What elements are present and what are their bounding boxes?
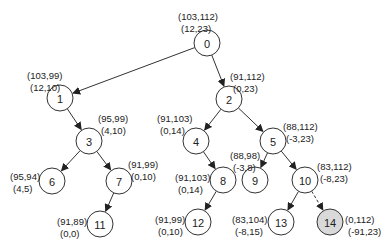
edge-2-4 xyxy=(205,109,221,130)
node-offset-label: (-8,15) xyxy=(235,226,263,237)
node-offset-label: (0,14) xyxy=(178,184,203,195)
edge-0-1 xyxy=(73,48,195,94)
node-id-label: 13 xyxy=(275,217,287,229)
node-id-label: 8 xyxy=(220,175,226,187)
node-id-label: 5 xyxy=(270,136,276,148)
edge-5-9 xyxy=(261,153,268,167)
node-coord-label: (91,103) xyxy=(175,172,210,183)
node-coord-label: (83,112) xyxy=(317,161,352,172)
edge-10-14 xyxy=(312,191,323,210)
edge-0-2 xyxy=(212,55,224,86)
node-coord-label: (91,103) xyxy=(157,113,192,124)
tree-node-7: 7 xyxy=(106,168,132,194)
node-coord-label: (91,99) xyxy=(155,214,185,225)
node-id-label: 12 xyxy=(192,217,204,229)
tree-node-4: 4 xyxy=(183,128,209,154)
node-id-label: 6 xyxy=(49,176,55,188)
node-offset-label: (-3,8) xyxy=(233,162,256,173)
edge-3-7 xyxy=(97,151,111,169)
node-offset-label: (0,0) xyxy=(60,228,80,239)
edge-7-11 xyxy=(106,193,114,211)
tree-node-12: 12 xyxy=(185,209,211,235)
node-coord-label: (91,112) xyxy=(230,71,265,82)
node-coord-label: (95,99) xyxy=(98,113,128,124)
node-offset-label: (12,23) xyxy=(181,23,211,34)
edge-8-12 xyxy=(205,191,216,210)
node-coord-label: (91,99) xyxy=(128,159,158,170)
node-id-label: 0 xyxy=(204,38,210,50)
node-offset-label: (0,23) xyxy=(233,83,258,94)
node-coord-label: (103,112) xyxy=(178,11,218,22)
node-id-label: 14 xyxy=(324,217,336,229)
node-coord-label: (88,98) xyxy=(230,150,260,161)
node-offset-label: (0,10) xyxy=(131,171,156,182)
node-id-label: 7 xyxy=(116,176,122,188)
tree-node-13: 13 xyxy=(268,209,294,235)
edge-4-8 xyxy=(203,152,215,169)
tree-node-11: 11 xyxy=(87,211,113,237)
tree-node-10: 10 xyxy=(292,167,318,193)
node-offset-label: (0,14) xyxy=(160,125,185,136)
tree-node-6: 6 xyxy=(39,168,65,194)
node-id-label: 2 xyxy=(226,94,232,106)
tree-node-3: 3 xyxy=(76,128,102,154)
edge-2-5 xyxy=(238,108,262,131)
edge-3-6 xyxy=(62,151,81,171)
node-offset-label: (4,5) xyxy=(13,183,33,194)
node-id-label: 11 xyxy=(94,219,105,231)
edge-1-3 xyxy=(67,109,81,130)
node-coord-label: (95,94) xyxy=(10,171,40,182)
tree-diagram: 01234567891011121314 (103,112)(12,23)(10… xyxy=(0,0,389,251)
node-offset-label: (0,10) xyxy=(158,226,183,237)
tree-node-14: 14 xyxy=(317,209,343,235)
node-id-label: 3 xyxy=(86,136,92,148)
node-offset-label: (-3,23) xyxy=(286,133,314,144)
node-offset-label: (12,10) xyxy=(30,82,60,93)
node-id-label: 10 xyxy=(299,175,311,187)
edge-5-10 xyxy=(281,151,296,169)
edge-10-13 xyxy=(288,191,299,210)
node-coord-label: (91,89) xyxy=(57,216,87,227)
node-coord-label: (0,112) xyxy=(345,214,374,225)
node-id-label: 1 xyxy=(57,93,63,105)
node-coord-label: (83,104) xyxy=(232,214,267,225)
node-offset-label: (4,10) xyxy=(101,125,126,136)
node-offset-label: (-8,23) xyxy=(320,173,348,184)
node-coord-label: (103,99) xyxy=(27,70,62,81)
node-offset-label: (-91,23) xyxy=(348,226,381,237)
node-id-label: 9 xyxy=(252,175,258,187)
node-coord-label: (88,112) xyxy=(283,121,318,132)
node-id-label: 4 xyxy=(193,136,199,148)
